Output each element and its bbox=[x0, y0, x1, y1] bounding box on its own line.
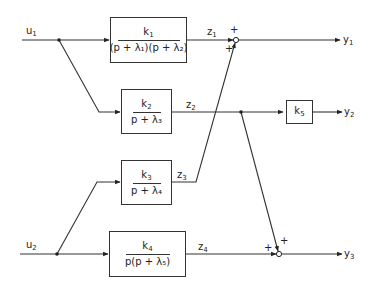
fraction-bar bbox=[118, 40, 180, 41]
fraction-bar bbox=[133, 112, 161, 113]
sign-s2-top: + bbox=[280, 236, 288, 246]
wire-z2-s2 bbox=[241, 112, 278, 251]
block-g3-numerator: k3 bbox=[141, 169, 151, 182]
block-g5-gain: k5 bbox=[294, 105, 304, 118]
output-label-y3: y3 bbox=[344, 249, 354, 261]
block-g1: k1 (p + λ₁)(p + λ₂) bbox=[110, 17, 187, 63]
fraction-bar bbox=[126, 254, 170, 255]
signal-label-z4: z4 bbox=[198, 242, 208, 254]
block-g3-denominator: p + λ₄ bbox=[131, 185, 162, 197]
block-g5: k5 bbox=[286, 100, 313, 124]
signal-label-z3: z3 bbox=[177, 170, 187, 182]
block-g1-denominator: (p + λ₁)(p + λ₂) bbox=[110, 42, 188, 54]
input-label-u1: u1 bbox=[26, 26, 37, 38]
branch-point-z2 bbox=[239, 110, 243, 114]
block-g4-denominator: p(p + λ₅) bbox=[125, 256, 170, 268]
signal-label-z2: z2 bbox=[186, 100, 196, 112]
summing-junction-s1 bbox=[233, 37, 238, 42]
block-g3: k3 p + λ₄ bbox=[121, 160, 172, 205]
sign-s1-top: + bbox=[230, 25, 238, 35]
signal-label-z1: z1 bbox=[207, 27, 217, 39]
output-label-y1: y1 bbox=[343, 35, 353, 47]
sign-s1-bottom: + bbox=[225, 44, 233, 54]
block-g4: k4 p(p + λ₅) bbox=[109, 231, 186, 277]
block-g4-numerator: k4 bbox=[142, 240, 152, 253]
sign-s2-left: + bbox=[264, 243, 272, 253]
diagram-canvas bbox=[0, 0, 376, 292]
summing-junction-s2 bbox=[276, 251, 281, 256]
branch-point-u2 bbox=[55, 252, 59, 256]
block-g2: k2 p + λ₃ bbox=[121, 89, 172, 134]
output-label-y2: y2 bbox=[344, 107, 354, 119]
block-g2-denominator: p + λ₃ bbox=[131, 114, 162, 126]
branch-point-u1 bbox=[57, 38, 61, 42]
input-label-u2: u2 bbox=[26, 240, 37, 252]
fraction-bar bbox=[133, 183, 161, 184]
block-g1-numerator: k1 bbox=[143, 26, 153, 39]
block-g2-numerator: k2 bbox=[141, 98, 151, 111]
